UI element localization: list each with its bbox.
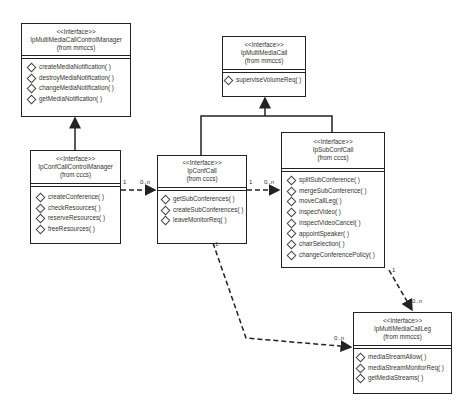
operation: getMediaStreams( )	[355, 373, 451, 384]
class-name: IpConfCallControlManager	[31, 163, 120, 171]
operation: splitSubConference( )	[286, 175, 384, 186]
stereotype: <<Interface>>	[223, 41, 305, 49]
operation-diamond-icon	[27, 95, 37, 105]
operation-diamond-icon	[36, 203, 46, 213]
operation-diamond-icon	[287, 218, 297, 228]
operation: checkResources( )	[35, 203, 120, 214]
operation: destroyMediaNotification( )	[26, 73, 130, 84]
operation: createConference( )	[35, 192, 120, 203]
multiplicity-label: 0..n	[334, 335, 344, 341]
operation-diamond-icon	[287, 229, 297, 239]
package-name: (from mmccs)	[22, 44, 130, 52]
package-name: (from cccs)	[31, 171, 120, 179]
class-ipconfcall[interactable]: <<Interface>> IpConfCall (from cccs) get…	[157, 155, 247, 244]
stereotype: <<Interface>>	[282, 138, 384, 146]
operation-diamond-icon	[36, 214, 46, 224]
operation: appointSpeaker( )	[286, 229, 384, 240]
class-ipconfcallcontrolmanager[interactable]: <<Interface>> IpConfCallControlManager (…	[30, 150, 121, 244]
package-name: (from mmccs)	[354, 333, 451, 341]
operation-diamond-icon	[287, 250, 297, 260]
operation: inspectVideo( )	[286, 207, 384, 218]
operation: getMediaNotification( )	[26, 94, 130, 105]
operation-diamond-icon	[27, 84, 37, 94]
operation: superviseVolumeReq( )	[223, 75, 305, 86]
operation-diamond-icon	[287, 175, 297, 185]
operation: chairSelection( )	[286, 239, 384, 250]
operation-diamond-icon	[287, 197, 297, 207]
operation-diamond-icon	[224, 75, 234, 85]
package-name: (from cccs)	[158, 175, 246, 183]
operation: createSubConferences( )	[160, 205, 246, 216]
operation: leaveMonitorReq( )	[160, 215, 246, 226]
operation: getSubConferences( )	[160, 194, 246, 205]
operation-diamond-icon	[356, 363, 366, 373]
class-name: IpMultiMediaCall	[223, 49, 305, 57]
operation: createMediaNotification( )	[26, 62, 130, 73]
operation: moveCallLeg( )	[286, 196, 384, 207]
stereotype: <<Interface>>	[22, 28, 130, 36]
operation-diamond-icon	[287, 240, 297, 250]
stereotype: <<Interface>>	[354, 317, 451, 325]
stereotype: <<Interface>>	[158, 159, 246, 167]
multiplicity-label: 0..n	[264, 179, 274, 185]
assoc-subconf-callleg	[389, 270, 412, 310]
stereotype: <<Interface>>	[31, 155, 120, 163]
operation-diamond-icon	[356, 374, 366, 384]
class-ipmultimediacallcontrolmanager[interactable]: <<Interface>> IpMultiMediaCallControlMan…	[21, 23, 131, 117]
operation-diamond-icon	[161, 216, 171, 226]
operation: changeConferencePolicy( )	[286, 250, 384, 261]
multiplicity-label: 1	[123, 179, 126, 185]
operation-diamond-icon	[27, 73, 37, 83]
operation-diamond-icon	[287, 208, 297, 218]
operation-diamond-icon	[356, 352, 366, 362]
operation-diamond-icon	[36, 192, 46, 202]
class-ipsubconfcall[interactable]: <<Interface>> IpSubConfCall (from cccs) …	[281, 132, 385, 268]
operation: mediaStreamMonitorReq( )	[355, 363, 451, 374]
package-name: (from mmccs)	[223, 57, 305, 65]
class-ipmultimediacallleg[interactable]: <<Interface>> IpMultiMediaCallLeg (from …	[353, 312, 452, 394]
class-name: IpConfCall	[158, 167, 246, 175]
operation: inspectVideoCancel( )	[286, 218, 384, 229]
class-ipmultimediacall[interactable]: <<Interface>> IpMultiMediaCall (from mmc…	[222, 36, 306, 97]
multiplicity-label: 1	[392, 267, 395, 273]
operation: reserveResources( )	[35, 213, 120, 224]
package-name: (from cccs)	[282, 154, 384, 162]
operation-diamond-icon	[161, 205, 171, 215]
multiplicity-label: 0..n	[140, 179, 150, 185]
operation: freeResources( )	[35, 224, 120, 235]
operation: changeMediaNotification( )	[26, 83, 130, 94]
operation: mergeSubConference( )	[286, 186, 384, 197]
multiplicity-label: 0..n	[412, 298, 422, 304]
class-name: IpMultiMediaCallLeg	[354, 325, 451, 333]
operation-diamond-icon	[27, 62, 37, 72]
multiplicity-label: 1	[215, 241, 218, 247]
operation-diamond-icon	[36, 225, 46, 235]
class-name: IpMultiMediaCallControlManager	[22, 36, 130, 44]
operation: mediaStreamAllow( )	[355, 352, 451, 363]
operation-diamond-icon	[161, 194, 171, 204]
operation-diamond-icon	[287, 186, 297, 196]
multiplicity-label: 1	[249, 179, 252, 185]
class-name: IpSubConfCall	[282, 146, 384, 154]
